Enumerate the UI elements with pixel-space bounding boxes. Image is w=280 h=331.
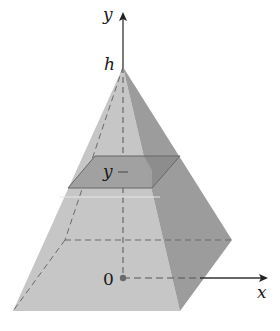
origin-point bbox=[120, 275, 126, 281]
pyramid-diagram: y h y 0 x bbox=[0, 0, 280, 331]
origin-label: 0 bbox=[103, 269, 114, 289]
cross-section-label: y bbox=[102, 161, 113, 181]
apex-label-h: h bbox=[104, 54, 115, 74]
y-axis-label: y bbox=[102, 4, 113, 24]
x-axis-label: x bbox=[257, 282, 267, 302]
